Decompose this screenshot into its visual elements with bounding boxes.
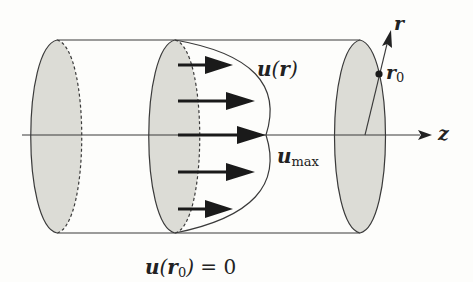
r-axis-label: r xyxy=(394,14,404,33)
bc-arg-sub: 0 xyxy=(178,265,186,280)
bc-arg: r xyxy=(167,255,178,279)
profile-label-close: ) xyxy=(290,57,298,81)
pipe-flow-diagram: u(r) umax r r0 z u(r0) = 0 xyxy=(0,0,473,282)
right-disk xyxy=(335,40,386,233)
diagram-canvas xyxy=(0,0,473,282)
r-axis-label-text: r xyxy=(394,12,404,34)
bc-close: ) xyxy=(186,255,194,279)
z-axis-label-text: z xyxy=(438,122,449,144)
r0-point xyxy=(375,70,382,77)
umax-label: umax xyxy=(277,146,319,168)
boundary-condition-label: u(r0) = 0 xyxy=(145,257,236,279)
profile-label: u(r) xyxy=(257,59,298,79)
umax-label-sub: max xyxy=(292,154,319,169)
profile-label-arg: r xyxy=(279,57,290,81)
bc-var: u xyxy=(145,255,160,279)
z-axis-arrowhead xyxy=(418,130,432,140)
r0-label: r0 xyxy=(386,63,404,84)
profile-label-var: u xyxy=(257,57,272,81)
r0-label-var: r xyxy=(386,61,396,83)
bc-rhs: = 0 xyxy=(200,255,236,279)
umax-label-var: u xyxy=(277,144,292,168)
left-disk xyxy=(31,40,82,233)
r0-label-sub: 0 xyxy=(396,70,404,85)
z-axis-label: z xyxy=(438,124,449,143)
